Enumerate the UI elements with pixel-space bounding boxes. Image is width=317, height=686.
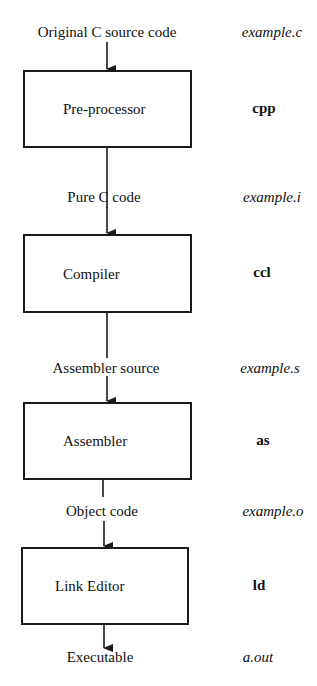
input-label-source: Original C source code bbox=[38, 25, 177, 40]
tool-name-as: as bbox=[256, 433, 269, 448]
process-label-assembler: Assembler bbox=[63, 433, 127, 450]
file-name-example-i: example.i bbox=[243, 190, 301, 205]
tool-name-cpp: cpp bbox=[252, 101, 275, 116]
process-box-link-editor: Link Editor bbox=[21, 547, 189, 625]
process-box-assembler: Assembler bbox=[23, 402, 192, 480]
input-label-assembler-source: Assembler source bbox=[52, 361, 159, 376]
process-label-compiler: Compiler bbox=[63, 265, 120, 282]
input-label-object-code: Object code bbox=[66, 504, 138, 519]
tool-name-ld: ld bbox=[253, 578, 266, 593]
process-label-preprocessor: Pre-processor bbox=[63, 101, 145, 118]
process-box-preprocessor: Pre-processor bbox=[23, 70, 192, 148]
process-label-link-editor: Link Editor bbox=[55, 578, 125, 595]
file-name-example-c: example.c bbox=[242, 25, 302, 40]
input-label-pure-c: Pure C code bbox=[67, 190, 140, 205]
process-box-compiler: Compiler bbox=[23, 234, 192, 313]
file-name-example-o: example.o bbox=[242, 504, 303, 519]
file-name-example-s: example.s bbox=[240, 361, 300, 376]
output-label-executable: Executable bbox=[67, 650, 134, 665]
tool-name-ccl: ccl bbox=[253, 265, 270, 280]
file-name-a-out: a.out bbox=[243, 650, 273, 665]
